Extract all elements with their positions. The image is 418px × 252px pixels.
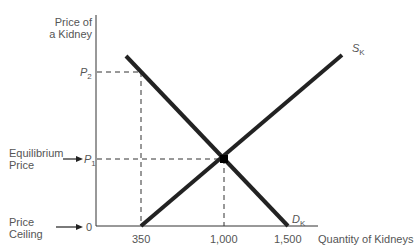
demand-label: DK — [292, 213, 305, 230]
ceil-line2: Ceiling — [9, 228, 43, 240]
equilibrium-point — [220, 155, 228, 163]
eq-arrowhead-icon — [76, 156, 83, 162]
eq-line1: Equilibrium — [9, 147, 63, 159]
ceiling-arrowhead-icon — [76, 224, 83, 230]
y-axis-label: Price of a Kidney — [52, 16, 92, 40]
x-tick-350: 350 — [132, 233, 150, 245]
x-tick-1500: 1,500 — [274, 233, 302, 245]
y-axis-label-line2: a Kidney — [44, 28, 92, 40]
ceil-line1: Price — [9, 216, 43, 228]
equilibrium-price-annotation: Equilibrium Price — [9, 147, 63, 171]
price-ceiling-annotation: Price Ceiling — [9, 216, 43, 240]
eq-line2: Price — [9, 159, 63, 171]
x-tick-1000: 1,000 — [210, 233, 238, 245]
x-axis-label: Quantity of Kidneys — [318, 233, 413, 245]
zero-label: 0 — [86, 221, 92, 233]
demand-curve — [126, 56, 288, 226]
p2-label: P2 — [80, 66, 92, 83]
supply-curve — [141, 55, 342, 226]
supply-label: SK — [352, 42, 365, 59]
p1-label: P1 — [84, 153, 96, 170]
y-axis-label-line1: Price of — [52, 16, 92, 28]
